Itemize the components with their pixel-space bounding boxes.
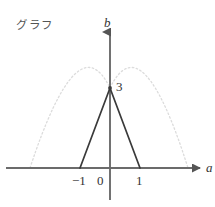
- vertex-value-label: 3: [116, 80, 123, 93]
- graph-figure: グラフ b a −1 0 1 3: [0, 0, 215, 207]
- figure-caption-japanese: グラフ: [16, 20, 54, 32]
- x-tick-label-negative-one: −1: [72, 174, 86, 187]
- x-axis-label: a: [206, 161, 213, 174]
- vertex-point-marker: [108, 86, 112, 90]
- solid-segment-right: [110, 88, 140, 168]
- x-tick-label-one: 1: [136, 174, 143, 187]
- y-axis-label: b: [104, 16, 111, 29]
- origin-label: 0: [97, 174, 104, 187]
- solid-segment-left: [80, 88, 110, 168]
